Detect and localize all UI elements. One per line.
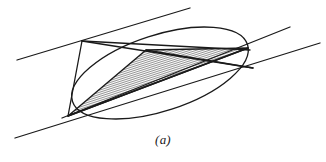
figure-container: (a) xyxy=(0,0,326,162)
chord-left-vertex-to-upper-left xyxy=(68,41,82,116)
tangent-line-middle xyxy=(62,27,290,118)
figure-caption: (a) xyxy=(0,132,326,148)
